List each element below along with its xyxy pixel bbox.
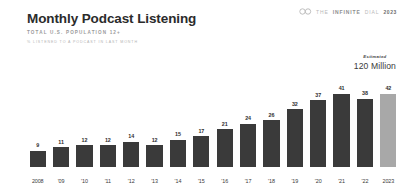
bar-rect: [263, 120, 279, 167]
x-tick-2023: 2023: [377, 179, 400, 184]
chart-plot-area: 9111212141215172124263237413842: [26, 86, 400, 167]
bar-rect: [170, 140, 186, 167]
x-tick-13: '13: [143, 179, 166, 184]
bar-value-label: 9: [36, 143, 39, 148]
bar-14: 15: [170, 86, 186, 167]
bar-10: 12: [76, 86, 92, 167]
x-tick-11: '11: [96, 179, 119, 184]
bar-value-label: 12: [82, 138, 88, 143]
bar-value-label: 12: [105, 138, 111, 143]
subtitle-population: TOTAL U.S. POPULATION 12+: [27, 30, 121, 35]
bar-rect: [357, 99, 373, 167]
bar-value-label: 38: [362, 91, 368, 96]
x-tick-09: '09: [49, 179, 72, 184]
bar-20: 37: [310, 86, 326, 167]
bar-15: 17: [193, 86, 209, 167]
bar-value-label: 37: [315, 93, 321, 98]
bar-value-label: 41: [339, 86, 345, 91]
bar-rect: [30, 151, 46, 167]
bar-rect: [333, 94, 349, 167]
x-axis-labels: 2008'09'10'11'12'13'14'15'16'17'18'19'20…: [26, 172, 400, 184]
bar-16: 21: [217, 86, 233, 167]
bar-rect: [310, 100, 326, 167]
bar-19: 32: [287, 86, 303, 167]
brand-dial: DIAL: [365, 9, 380, 15]
bar-rect: [123, 142, 139, 167]
bar-22: 38: [357, 86, 373, 167]
x-tick-18: '18: [260, 179, 283, 184]
x-tick-16: '16: [213, 179, 236, 184]
infinity-icon: [299, 8, 312, 15]
bar-value-label: 26: [269, 113, 275, 118]
x-tick-17: '17: [236, 179, 259, 184]
brand-year: 2023: [383, 9, 397, 15]
bar-rect: [100, 145, 116, 167]
x-tick-15: '15: [190, 179, 213, 184]
bar-value-label: 11: [58, 140, 64, 145]
x-tick-22: '22: [353, 179, 376, 184]
bar-rect: [240, 124, 256, 167]
callout-label: Estimated: [354, 55, 396, 59]
x-tick-20: '20: [307, 179, 330, 184]
bar-value-label: 14: [128, 134, 134, 139]
bar-18: 26: [263, 86, 279, 167]
bar-value-label: 12: [152, 138, 158, 143]
bar-value-label: 32: [292, 102, 298, 107]
brand-logo: THE INFINITE DIAL 2023: [299, 8, 397, 15]
subtitle-metric: % LISTENED TO A PODCAST IN LAST MONTH: [27, 40, 138, 44]
x-tick-19: '19: [283, 179, 306, 184]
bar-2008: 9: [30, 86, 46, 167]
x-tick-14: '14: [166, 179, 189, 184]
bar-17: 24: [240, 86, 256, 167]
bar-12: 14: [123, 86, 139, 167]
x-tick-21: '21: [330, 179, 353, 184]
x-tick-10: '10: [73, 179, 96, 184]
bar-chart: 9111212141215172124263237413842 2008'09'…: [26, 86, 400, 189]
brand-the: THE: [316, 9, 329, 15]
bar-value-label: 21: [222, 122, 228, 127]
bar-rect: [146, 145, 162, 167]
callout-value: 120 Million: [354, 62, 396, 71]
slide-canvas: Monthly Podcast Listening TOTAL U.S. POP…: [0, 0, 413, 193]
bar-value-label: 15: [175, 132, 181, 137]
brand-infinite: INFINITE: [333, 9, 361, 15]
bar-2023: 42: [380, 86, 396, 167]
bar-rect: [193, 136, 209, 167]
bar-rect: [217, 129, 233, 167]
bar-11: 12: [100, 86, 116, 167]
x-tick-2008: 2008: [26, 179, 49, 184]
bar-rect: [380, 94, 396, 167]
bar-21: 41: [333, 86, 349, 167]
bar-13: 12: [146, 86, 162, 167]
x-tick-12: '12: [120, 179, 143, 184]
estimated-callout: Estimated 120 Million: [354, 55, 396, 71]
bar-09: 11: [53, 86, 69, 167]
bar-value-label: 17: [198, 129, 204, 134]
bar-rect: [76, 145, 92, 167]
page-title: Monthly Podcast Listening: [27, 11, 196, 26]
bar-rect: [287, 109, 303, 167]
bar-value-label: 24: [245, 116, 251, 121]
bar-rect: [53, 147, 69, 167]
bar-value-label: 42: [385, 86, 391, 91]
